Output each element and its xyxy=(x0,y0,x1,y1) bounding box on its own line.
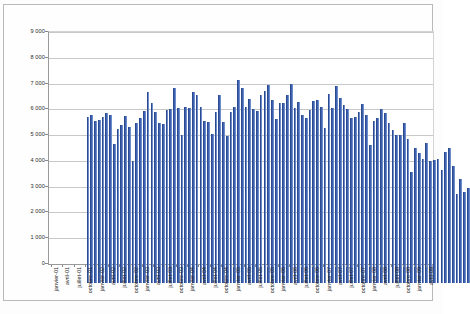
x-axis: janvier-01avril-01juillet-01octobre-01ja… xyxy=(49,267,433,313)
x-tick-label: octobre-06 xyxy=(314,267,320,293)
x-tick-mark xyxy=(335,265,336,267)
x-tick-label: avril-05 xyxy=(246,267,252,285)
x-tick-mark xyxy=(426,265,427,267)
y-tick-label: 3 000 xyxy=(31,183,46,189)
bar-series xyxy=(86,51,470,283)
x-tick-mark xyxy=(357,265,358,267)
y-tick-label: 2 000 xyxy=(31,208,46,214)
x-tick-mark xyxy=(369,265,370,267)
x-tick-mark xyxy=(323,265,324,267)
x-tick-mark xyxy=(176,265,177,267)
x-tick-mark xyxy=(278,265,279,267)
y-tick-label: 1 000 xyxy=(31,234,46,240)
x-tick-mark xyxy=(108,265,109,267)
x-tick-mark xyxy=(130,265,131,267)
x-tick-label: octobre-07 xyxy=(360,267,366,293)
x-tick-mark xyxy=(51,265,52,267)
x-tick-label: avril-01 xyxy=(64,267,70,285)
image-frame: 9 0008 0007 0006 0005 0004 0003 0002 000… xyxy=(3,4,433,301)
x-tick-mark xyxy=(380,265,381,267)
y-tick-label: 9 000 xyxy=(31,28,46,34)
x-tick-mark xyxy=(346,265,347,267)
x-tick-label: janvier-07 xyxy=(326,267,332,291)
y-tick-label: 8 000 xyxy=(31,54,46,60)
x-tick-mark xyxy=(164,265,165,267)
x-tick-label: janvier-08 xyxy=(371,267,377,291)
plot-area xyxy=(48,31,434,265)
x-tick-label: octobre-02 xyxy=(133,267,139,293)
x-tick-mark xyxy=(198,265,199,267)
x-tick-mark xyxy=(119,265,120,267)
x-tick-label: janvier-05 xyxy=(235,267,241,291)
x-tick-mark xyxy=(85,265,86,267)
x-tick-label: juillet-05 xyxy=(257,267,263,288)
x-tick-mark xyxy=(153,265,154,267)
x-tick-label: octobre-03 xyxy=(178,267,184,293)
x-tick-label: avril-09 xyxy=(428,267,434,285)
x-tick-label: juillet-08 xyxy=(394,267,400,288)
x-tick-mark xyxy=(244,265,245,267)
x-tick-mark xyxy=(301,265,302,267)
x-tick-label: octobre-08 xyxy=(405,267,411,293)
x-tick-mark xyxy=(233,265,234,267)
bar xyxy=(467,188,470,283)
x-tick-label: avril-02 xyxy=(110,267,116,285)
y-tick-label: 4 000 xyxy=(31,157,46,163)
x-tick-label: juillet-03 xyxy=(167,267,173,288)
x-tick-label: janvier-04 xyxy=(189,267,195,291)
x-tick-label: avril-07 xyxy=(337,267,343,285)
y-tick-label: 6 000 xyxy=(31,105,46,111)
x-tick-mark xyxy=(403,265,404,267)
x-tick-mark xyxy=(74,265,75,267)
x-tick-mark xyxy=(187,265,188,267)
x-tick-label: juillet-04 xyxy=(212,267,218,288)
chart-container: 9 0008 0007 0006 0005 0004 0003 0002 000… xyxy=(12,13,436,305)
bar-slot xyxy=(466,51,470,283)
x-tick-label: avril-06 xyxy=(292,267,298,285)
x-tick-label: janvier-01 xyxy=(53,267,59,291)
x-tick-label: janvier-03 xyxy=(144,267,150,291)
y-axis: 9 0008 0007 0006 0005 0004 0003 0002 000… xyxy=(12,31,45,265)
x-tick-mark xyxy=(289,265,290,267)
x-tick-label: juillet-02 xyxy=(121,267,127,288)
y-tick-label: 5 000 xyxy=(31,131,46,137)
x-tick-label: octobre-04 xyxy=(223,267,229,293)
x-tick-label: janvier-06 xyxy=(280,267,286,291)
x-tick-label: juillet-07 xyxy=(348,267,354,288)
x-tick-mark xyxy=(391,265,392,267)
x-tick-label: juillet-06 xyxy=(303,267,309,288)
x-tick-label: avril-03 xyxy=(155,267,161,285)
x-tick-mark xyxy=(210,265,211,267)
x-tick-label: avril-08 xyxy=(382,267,388,285)
x-tick-mark xyxy=(312,265,313,267)
x-tick-mark xyxy=(96,265,97,267)
gridline xyxy=(49,32,433,33)
x-tick-mark xyxy=(142,265,143,267)
x-tick-label: juillet-01 xyxy=(76,267,82,288)
x-tick-label: janvier-09 xyxy=(416,267,422,291)
x-tick-label: octobre-05 xyxy=(269,267,275,293)
x-tick-label: octobre-01 xyxy=(87,267,93,293)
x-tick-label: janvier-02 xyxy=(99,267,105,291)
y-tick-label: 7 000 xyxy=(31,80,46,86)
x-tick-label: avril-04 xyxy=(201,267,207,285)
x-tick-mark xyxy=(267,265,268,267)
